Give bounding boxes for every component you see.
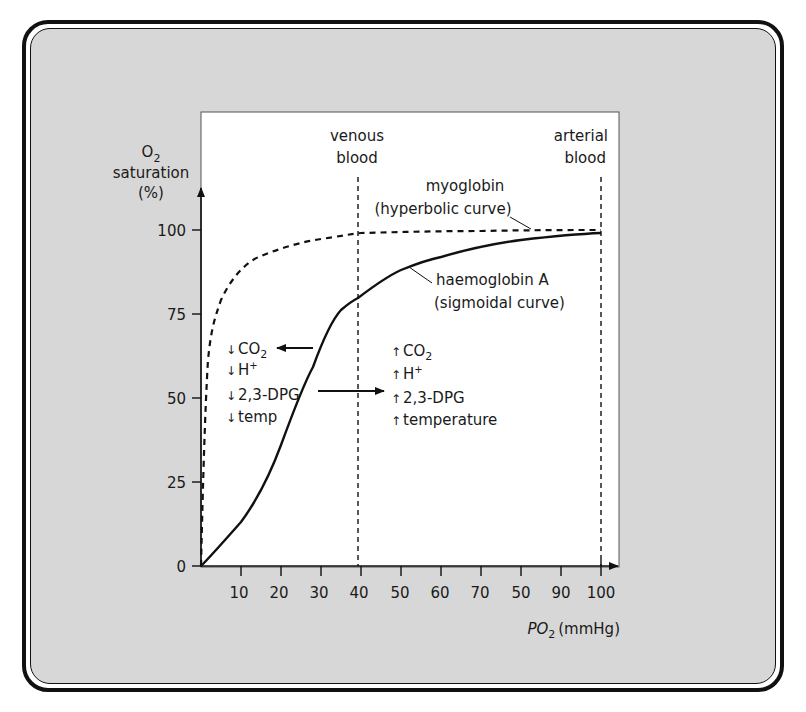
x-tick-label: 50 xyxy=(511,584,530,602)
x-tick-label: 90 xyxy=(551,584,570,602)
svg-text:(%): (%) xyxy=(138,184,164,202)
x-tick-label: 30 xyxy=(309,584,328,602)
x-tick-label: 20 xyxy=(269,584,288,602)
y-tick-label: 0 xyxy=(176,558,186,576)
plot-area xyxy=(201,112,619,567)
svg-text:blood: blood xyxy=(336,149,378,167)
svg-text:haemoglobin A: haemoglobin A xyxy=(436,271,550,289)
svg-text:↓temp: ↓temp xyxy=(226,408,277,426)
x-tick-label: 10 xyxy=(229,584,248,602)
oxygen-dissociation-chart: 0 25 50 75 100 10 20 30 40 50 60 70 50 9… xyxy=(0,0,806,712)
svg-text:↑temperature: ↑temperature xyxy=(391,411,497,429)
svg-text:venous: venous xyxy=(330,127,384,145)
y-tick-labels: 0 25 50 75 100 xyxy=(157,222,186,576)
y-tick-label: 50 xyxy=(167,390,186,408)
y-tick-label: 100 xyxy=(157,222,186,240)
y-tick-label: 75 xyxy=(167,306,186,324)
svg-text:arterial: arterial xyxy=(554,127,608,145)
x-tick-label: 60 xyxy=(430,584,449,602)
y-axis-title: O2 saturation (%) xyxy=(113,143,190,202)
svg-text:(hyperbolic curve): (hyperbolic curve) xyxy=(374,200,511,218)
svg-text:O2: O2 xyxy=(142,143,161,165)
x-tick-label: 50 xyxy=(390,584,409,602)
x-axis-title: PO2(mmHg) xyxy=(527,620,620,641)
y-tick-label: 25 xyxy=(167,474,186,492)
x-tick-label: 40 xyxy=(349,584,368,602)
x-tick-label: 70 xyxy=(470,584,489,602)
x-tick-label: 100 xyxy=(587,584,616,602)
svg-text:saturation: saturation xyxy=(113,164,190,182)
svg-text:myoglobin: myoglobin xyxy=(426,177,505,195)
svg-text:(sigmoidal curve): (sigmoidal curve) xyxy=(434,294,565,312)
svg-text:blood: blood xyxy=(564,149,606,167)
y-ticks xyxy=(192,230,201,566)
x-tick-labels: 10 20 30 40 50 60 70 50 90 100 xyxy=(229,584,615,602)
